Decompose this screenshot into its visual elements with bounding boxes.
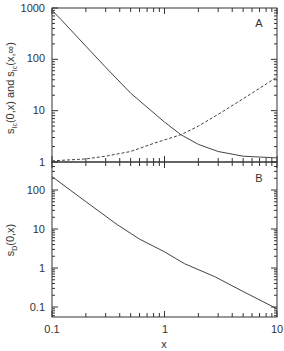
xtick-0.1: 0.1 <box>44 323 59 335</box>
svg-text:sIc(0,x) and sIc(x,∞): sIc(0,x) and sIc(x,∞) <box>4 42 18 134</box>
xtick-10: 10 <box>271 323 283 335</box>
panel-b-frame <box>52 162 277 317</box>
y-axis-label-b: sD(0,x) <box>4 224 18 257</box>
x-axis-label: x <box>161 338 167 350</box>
ytick-a-10: 10 <box>33 104 45 116</box>
svg-text:sD(0,x): sD(0,x) <box>4 224 18 257</box>
curve-a-dashed <box>52 77 277 161</box>
ytick-a-100: 100 <box>27 52 45 64</box>
ytick-b-0.1: 0.1 <box>30 301 45 313</box>
panel-b-label: B <box>255 172 262 184</box>
xtick-1: 1 <box>162 323 168 335</box>
ytick-b-10: 10 <box>33 223 45 235</box>
ytick-a-1000: 1000 <box>21 2 45 14</box>
chart-figure: 1000 100 10 1 100 10 1 0.1 0.1 1 10 x A … <box>0 0 284 351</box>
panel-a-frame <box>52 8 277 162</box>
y-axis-label-a: sIc(0,x) and sIc(x,∞) <box>4 42 18 134</box>
ytick-a-1: 1 <box>39 156 45 168</box>
curve-b-solid <box>52 177 277 309</box>
ytick-b-100: 100 <box>27 184 45 196</box>
panel-a-label: A <box>255 17 263 29</box>
ytick-b-1: 1 <box>39 262 45 274</box>
curve-a-solid <box>52 10 277 158</box>
axis-ticks <box>52 8 277 317</box>
